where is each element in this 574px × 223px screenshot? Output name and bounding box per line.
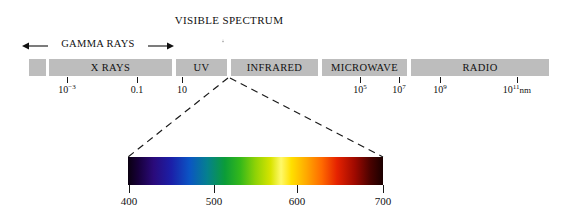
tick-1e7-label: 107 bbox=[392, 84, 406, 95]
wavelength-tick-600 bbox=[297, 185, 298, 193]
wavelength-tick-600-label: 600 bbox=[289, 195, 306, 207]
visible-spectrum-label: VISIBLE SPECTRUM bbox=[175, 14, 284, 26]
band-infrared: INFRARED bbox=[231, 59, 318, 76]
wavelength-tick-400-label: 400 bbox=[121, 195, 138, 207]
wavelength-tick-700 bbox=[383, 185, 384, 193]
tick-1e11-label: 1011nm bbox=[503, 84, 531, 95]
visible-light-color-band bbox=[128, 157, 383, 185]
tick-1e5-label: 105 bbox=[353, 84, 367, 95]
tick-1e7 bbox=[399, 77, 400, 83]
tick-10-label: 10 bbox=[177, 84, 187, 95]
wavelength-tick-400 bbox=[129, 185, 130, 193]
gamma-rays-group: GAMMA RAYS bbox=[22, 38, 174, 54]
tick-10 bbox=[182, 77, 183, 83]
unit-suffix: nm bbox=[520, 85, 532, 95]
wavelength-tick-500-label: 500 bbox=[206, 195, 223, 207]
wavelength-tick-700-label: 700 bbox=[375, 195, 392, 207]
detail-connector-lines bbox=[0, 0, 574, 223]
tick-0p1 bbox=[137, 77, 138, 83]
electromagnetic-spectrum-figure: VISIBLE SPECTRUM GAMMA RAYS X RAYSUVINFR… bbox=[0, 0, 574, 223]
tick-0p1-label: 0.1 bbox=[131, 84, 144, 95]
wavelength-tick-500 bbox=[214, 185, 215, 193]
tick-1e9 bbox=[440, 77, 441, 83]
tick-1e-3-label: 10−3 bbox=[58, 84, 75, 95]
gamma-rays-double-arrow-icon bbox=[22, 38, 174, 54]
tick-1e9-label: 109 bbox=[433, 84, 447, 95]
band-x-rays: X RAYS bbox=[49, 59, 172, 76]
band-radio: RADIO bbox=[411, 59, 549, 76]
visible-spectrum-arrow-icon bbox=[222, 31, 224, 51]
tick-1e5 bbox=[360, 77, 361, 83]
band-uv: UV bbox=[176, 59, 227, 76]
band-microwave: MICROWAVE bbox=[322, 59, 407, 76]
band-gamma-stub bbox=[29, 59, 46, 76]
